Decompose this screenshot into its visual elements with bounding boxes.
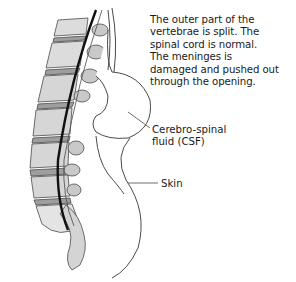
description-line: vertebrae is split. The <box>150 26 296 38</box>
csf-label-line: Cerebro-spinal <box>152 124 226 136</box>
description-text: The outer part of the vertebrae is split… <box>150 14 296 88</box>
description-line: spinal cord is normal. <box>150 39 296 51</box>
description-line: through the opening. <box>150 76 296 88</box>
skin-outline <box>112 8 141 278</box>
description-line: damaged and pushed out <box>150 64 296 76</box>
skin-label: Skin <box>161 178 183 190</box>
csf-label: Cerebro-spinal fluid (CSF) <box>152 124 226 149</box>
description-line: The outer part of the <box>150 14 296 26</box>
description-line: The meninges is <box>150 51 296 63</box>
csf-label-line: fluid (CSF) <box>152 136 226 148</box>
